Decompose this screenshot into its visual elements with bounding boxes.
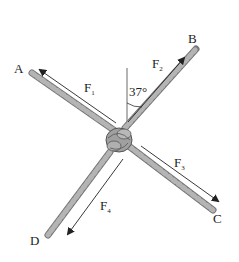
force-arrow-f1 — [40, 70, 116, 123]
label-b: B — [188, 31, 197, 46]
rope-c — [130, 147, 213, 210]
rope-a — [32, 73, 118, 133]
label-f2: F2 — [152, 56, 163, 73]
label-a: A — [14, 61, 24, 76]
label-f3: F3 — [174, 155, 185, 172]
rope-d — [48, 152, 110, 235]
label-f4: F4 — [100, 198, 111, 215]
label-d: D — [30, 233, 39, 248]
angle-label: 37° — [129, 84, 147, 99]
label-c: C — [213, 211, 222, 226]
knot — [106, 128, 132, 152]
diagram-svg: A B C D F1 F2 F3 F4 37° — [0, 0, 239, 262]
force-diagram: A B C D F1 F2 F3 F4 37° — [0, 0, 239, 262]
label-f1: F1 — [84, 80, 95, 97]
